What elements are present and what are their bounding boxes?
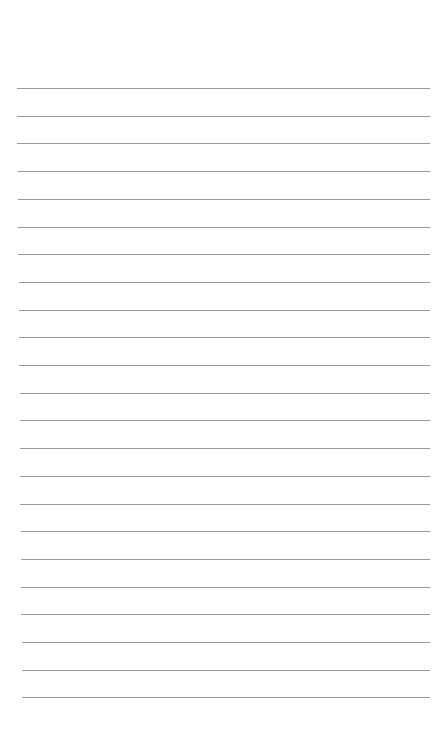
ruled-line: [22, 670, 430, 671]
ruled-line: [20, 393, 430, 394]
ruled-line: [21, 614, 430, 615]
ruled-line: [22, 642, 430, 643]
ruled-line: [20, 476, 430, 477]
ruled-line: [18, 254, 430, 255]
ruled-line: [21, 559, 430, 560]
lined-page: [0, 0, 432, 736]
ruled-line: [21, 587, 430, 588]
ruled-line: [21, 531, 430, 532]
ruled-line: [17, 116, 430, 117]
ruled-line: [19, 365, 430, 366]
ruled-line: [20, 448, 430, 449]
ruled-line: [18, 171, 430, 172]
ruled-line: [19, 282, 430, 283]
ruled-line: [18, 199, 430, 200]
ruled-line: [20, 420, 430, 421]
ruled-line: [19, 337, 430, 338]
ruled-line: [17, 88, 430, 89]
ruled-line: [18, 227, 430, 228]
ruled-line: [20, 504, 430, 505]
ruled-line: [22, 697, 430, 698]
ruled-line: [17, 143, 430, 144]
ruled-line: [19, 310, 430, 311]
